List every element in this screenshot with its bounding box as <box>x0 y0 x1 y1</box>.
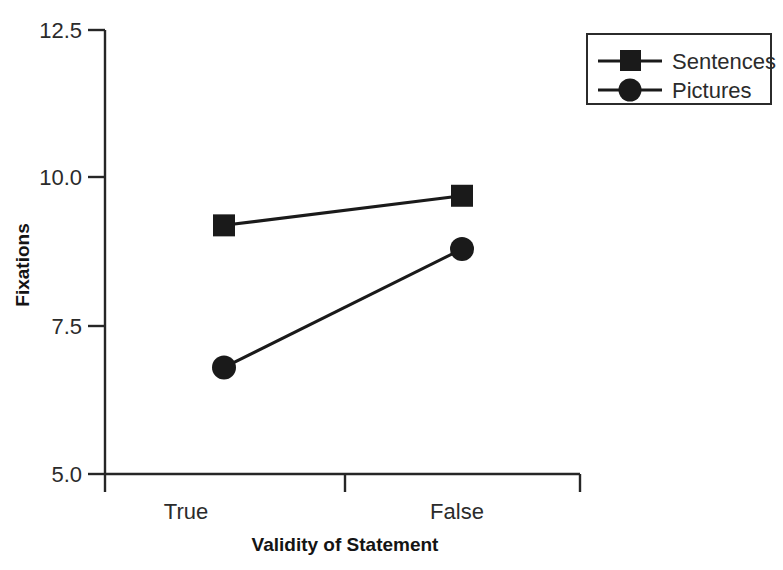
x-tick-label-false: False <box>430 499 484 524</box>
circle-marker-icon <box>619 79 642 102</box>
legend-label-sentences: Sentences <box>672 49 776 74</box>
data-point-pictures-true <box>212 355 236 379</box>
legend-item-sentences[interactable]: Sentences <box>598 49 776 74</box>
x-tick-label-true: True <box>164 499 208 524</box>
legend-label-pictures: Pictures <box>672 78 751 103</box>
square-marker-icon <box>620 50 641 71</box>
line-chart: 12.5 10.0 7.5 5.0 True False Validity of… <box>0 0 783 570</box>
data-point-pictures-false <box>450 237 474 261</box>
y-tick-label-10-0: 10.0 <box>39 165 82 190</box>
chart-legend: Sentences Pictures <box>587 34 776 104</box>
chart-figure: 12.5 10.0 7.5 5.0 True False Validity of… <box>0 0 783 570</box>
data-point-sentences-false <box>451 185 473 207</box>
data-point-sentences-true <box>213 214 235 236</box>
y-tick-label-5-0: 5.0 <box>51 462 82 487</box>
y-tick-label-12-5: 12.5 <box>39 18 82 43</box>
y-tick-label-7-5: 7.5 <box>51 314 82 339</box>
x-axis-title: Validity of Statement <box>252 534 440 555</box>
y-axis-title: Fixations <box>12 223 33 306</box>
